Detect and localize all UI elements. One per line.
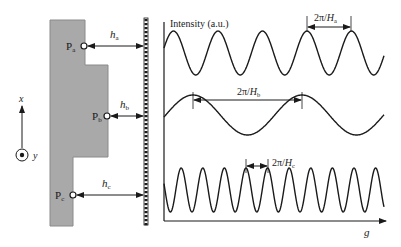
- distance-label-ha: ha: [110, 28, 120, 42]
- period-marker-ha: 2π/Ha: [307, 12, 351, 32]
- diagram: Pa ha Pb hb Pc hc x y Intensity (a.u.) g: [0, 0, 401, 247]
- period-label-ha: 2π/Ha: [314, 12, 337, 24]
- g-axis-label: g: [364, 226, 370, 238]
- grating-ruler: [144, 18, 148, 225]
- point-a-marker: [81, 43, 87, 49]
- wave-a-curve: [164, 31, 384, 75]
- intensity-axis-label: Intensity (a.u.): [170, 18, 229, 30]
- x-axis-label: x: [18, 93, 24, 104]
- period-marker-hb: 2π/Hb: [193, 86, 302, 109]
- y-axis-label: y: [32, 150, 38, 161]
- diagram-canvas: Pa ha Pb hb Pc hc x y Intensity (a.u.) g: [0, 0, 401, 247]
- y-axis-dot: [20, 153, 24, 157]
- point-c-marker: [70, 192, 76, 198]
- wave-b-curve: [164, 95, 384, 135]
- coordinate-axes: x y: [16, 93, 38, 161]
- wave-c-curve: [164, 168, 384, 212]
- point-b-marker: [104, 113, 110, 119]
- period-label-hb: 2π/Hb: [237, 86, 260, 98]
- distance-label-hb: hb: [120, 98, 130, 112]
- period-label-hc: 2π/Hc: [272, 157, 295, 169]
- distance-label-hc: hc: [102, 177, 111, 191]
